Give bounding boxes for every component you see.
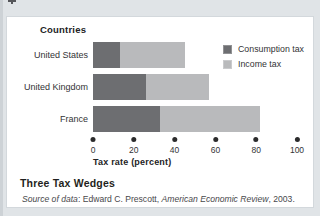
tick-dot	[213, 137, 218, 142]
bar-segment-consumption-tax	[93, 106, 160, 132]
tick-label: 40	[170, 145, 179, 155]
bar-segment-consumption-tax	[93, 74, 146, 100]
figure-card: Countries United States United Kingdom F…	[7, 17, 313, 207]
bar-track-united-kingdom	[93, 74, 209, 100]
source-note: Source of data: Edward C. Prescott, Amer…	[22, 194, 295, 204]
row-label-united-kingdom: United Kingdom	[7, 82, 93, 92]
bar-row-france: France	[7, 106, 313, 132]
tick-label: 100	[290, 145, 304, 155]
tick-dot	[254, 137, 259, 142]
tick-label: 80	[251, 145, 260, 155]
source-note-label: Source of data	[22, 194, 78, 204]
axis-tick-80: 80	[251, 135, 260, 155]
legend-swatch-income-tax	[223, 60, 232, 69]
bar-segment-income-tax	[120, 42, 185, 68]
figure-caption-title: Three Tax Wedges	[20, 177, 115, 189]
legend-label-consumption-tax: Consumption tax	[238, 44, 304, 54]
row-label-france: France	[7, 114, 93, 124]
tick-label: 0	[91, 145, 96, 155]
tick-dot	[131, 137, 136, 142]
tick-label: 60	[211, 145, 220, 155]
axis-tick-100: 100	[290, 135, 304, 155]
legend: Consumption tax Income tax	[223, 44, 304, 69]
bar-track-france	[93, 106, 260, 132]
row-label-united-states: United States	[7, 50, 93, 60]
bar-segment-income-tax	[160, 106, 260, 132]
tick-dot	[172, 137, 177, 142]
legend-item-income-tax: Income tax	[223, 59, 304, 69]
source-note-author: Edward C. Prescott,	[83, 194, 162, 204]
cropped-artifact-mark	[8, 0, 17, 5]
bar-segment-consumption-tax	[93, 42, 120, 68]
source-note-journal: American Economic Review	[162, 194, 269, 204]
legend-label-income-tax: Income tax	[238, 59, 281, 69]
axis-tick-40: 40	[170, 135, 179, 155]
bar-segment-income-tax	[146, 74, 209, 100]
legend-swatch-consumption-tax	[223, 45, 232, 54]
tick-dot	[91, 137, 96, 142]
tick-label: 20	[129, 145, 138, 155]
bar-row-united-kingdom: United Kingdom	[7, 74, 313, 100]
axis-tick-60: 60	[211, 135, 220, 155]
tick-dot	[295, 137, 300, 142]
legend-item-consumption-tax: Consumption tax	[223, 44, 304, 54]
y-axis-heading: Countries	[40, 24, 86, 35]
axis-tick-20: 20	[129, 135, 138, 155]
textbook-figure-screenshot: Countries United States United Kingdom F…	[0, 0, 320, 216]
source-note-tail: , 2003.	[268, 194, 294, 204]
page-edge-strip	[0, 0, 3, 216]
bar-track-united-states	[93, 42, 185, 68]
x-axis-label: Tax rate (percent)	[93, 157, 171, 167]
axis-tick-0: 0	[91, 135, 96, 155]
artifact-stem	[11, 2, 13, 4]
